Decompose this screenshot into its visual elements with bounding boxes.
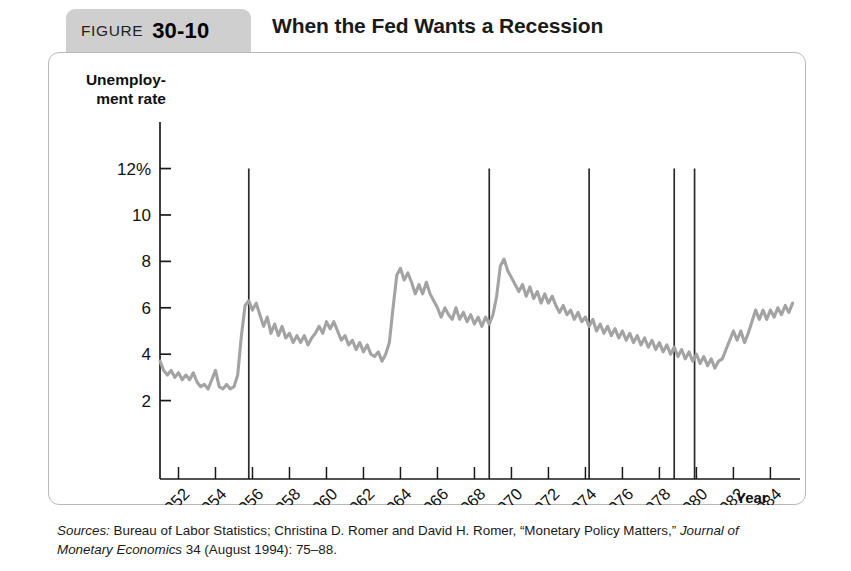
- x-axis-tick-label: 1958: [265, 484, 304, 505]
- x-axis-tick-label: 1970: [487, 484, 526, 505]
- source-part1: Bureau of Labor Statistics; Christina D.…: [110, 523, 680, 538]
- unemployment-rate-line: [160, 259, 793, 389]
- x-axis-tick-label: 1962: [339, 484, 378, 505]
- x-axis-tick-label: 1976: [598, 484, 637, 505]
- x-axis-tick-label: 1982: [709, 484, 748, 505]
- source-note: Sources: Bureau of Labor Statistics; Chr…: [57, 521, 797, 559]
- y-axis-tick-label: 10: [132, 206, 151, 225]
- y-axis-tick-label: 6: [142, 299, 151, 318]
- y-axis-tick-label: 8: [142, 252, 151, 271]
- x-axis-tick-label: 1968: [450, 484, 489, 505]
- figure-container: FIGURE 30-10 When the Fed Wants a Recess…: [0, 0, 851, 571]
- figure-word: FIGURE: [81, 22, 143, 40]
- x-axis-tick-label: 1954: [191, 484, 230, 505]
- figure-number: 30-10: [152, 18, 209, 44]
- y-axis-tick-label: 12%: [117, 160, 151, 179]
- x-axis-tick-label: 1984: [746, 484, 785, 505]
- figure-label-tab: FIGURE 30-10: [66, 9, 251, 53]
- x-axis-tick-label: 1980: [672, 484, 711, 505]
- x-axis-tick-label: 1952: [154, 484, 193, 505]
- x-axis-tick-label: 1956: [228, 484, 267, 505]
- y-axis-tick-label: 4: [142, 345, 151, 364]
- x-axis-tick-label: 1978: [635, 484, 674, 505]
- x-axis-tick-label: 1972: [524, 484, 563, 505]
- x-axis-tick-label: 1974: [561, 484, 600, 505]
- source-part2: 34 (August 1994): 75–88.: [182, 542, 337, 557]
- figure-label-inner: FIGURE 30-10: [66, 9, 251, 53]
- x-axis-tick-label: 1966: [413, 484, 452, 505]
- x-axis-tick-label: 1964: [376, 484, 415, 505]
- source-label: Sources:: [57, 523, 110, 538]
- figure-title: When the Fed Wants a Recession: [272, 14, 603, 38]
- y-axis-tick-label: 2: [142, 392, 151, 411]
- unemployment-line-chart: 24681012%1952195419561958196019621964196…: [48, 52, 806, 505]
- x-axis-tick-label: 1960: [302, 484, 341, 505]
